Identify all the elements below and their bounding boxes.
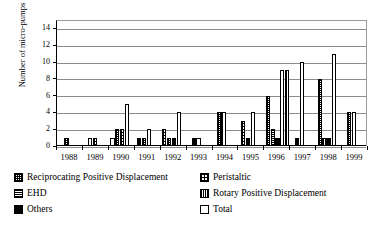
bar-1996-total: [280, 70, 284, 146]
y-axis-tick-label: 4: [26, 108, 50, 116]
x-axis-tick-mark: [108, 146, 109, 150]
y-axis-tick-label: 2: [26, 125, 50, 133]
legend-row: EHD Rotary Positive Displacement: [14, 188, 374, 204]
bar-1994-total: [222, 112, 226, 146]
legend-swatch-peristaltic-icon: [200, 173, 209, 182]
legend-item-total: Total: [200, 204, 374, 215]
bar-1992-peri: [162, 129, 166, 146]
bar-1998-total: [332, 54, 336, 146]
bar-1992-total: [177, 112, 181, 146]
bar-1996-ehd: [271, 129, 275, 146]
bar-1991-total: [147, 129, 151, 146]
x-axis-tick-mark: [134, 146, 135, 150]
legend-item-peristaltic: Peristaltic: [200, 172, 374, 183]
x-axis-tick-labels: 1988198919901991199219931994199519961997…: [56, 152, 367, 166]
legend-label: Rotary Positive Displacement: [213, 188, 326, 199]
x-axis-tick-mark: [263, 146, 264, 150]
x-axis-tick-mark: [367, 146, 368, 150]
x-axis-tick-mark: [160, 146, 161, 150]
bar-1990-recip: [115, 129, 119, 146]
legend-item-recip: Reciprocating Positive Displacement: [14, 172, 200, 183]
legend-row: Reciprocating Positive Displacement Peri…: [14, 172, 374, 188]
x-axis-tick-mark: [56, 146, 57, 150]
x-axis-tick-mark: [341, 146, 342, 150]
plot-area: [56, 20, 367, 146]
x-axis-tick-mark: [212, 146, 213, 150]
bar-1997-total: [300, 62, 304, 146]
y-axis-tick-label: 0: [26, 142, 50, 150]
bar-1996-rotary: [285, 70, 289, 146]
bar-series-container: [57, 21, 366, 146]
legend-swatch-others-icon: [14, 205, 23, 214]
legend-item-ehd: EHD: [14, 188, 200, 199]
legend-swatch-rotary-icon: [200, 189, 209, 198]
bar-1990-total: [125, 104, 129, 146]
y-axis-tick-label: 12: [26, 41, 50, 49]
legend-swatch-total-icon: [200, 205, 209, 214]
x-axis-tick-mark: [289, 146, 290, 150]
bar-1994-recip: [217, 112, 221, 146]
legend-label: Total: [213, 204, 232, 215]
legend-label: Others: [27, 204, 52, 215]
x-axis-tick-mark: [186, 146, 187, 150]
bar-1996-recip: [266, 96, 270, 146]
legend-label: Reciprocating Positive Displacement: [27, 172, 168, 183]
bar-1990-peri: [120, 129, 124, 146]
legend-swatch-recip-icon: [14, 173, 23, 182]
chart-root: Number of micro-pumps 02468101214 198819…: [0, 0, 386, 232]
legend-item-rotary: Rotary Positive Displacement: [200, 188, 374, 199]
x-axis-tick-mark: [315, 146, 316, 150]
chart-legend: Reciprocating Positive Displacement Peri…: [14, 172, 374, 220]
x-axis-tick-mark: [237, 146, 238, 150]
legend-label: Peristaltic: [213, 172, 251, 183]
bar-1995-total: [251, 112, 255, 146]
legend-row: Others Total: [14, 204, 374, 220]
x-axis-tick-label: 1999: [339, 152, 369, 162]
legend-label: EHD: [27, 188, 47, 199]
legend-swatch-ehd-icon: [14, 189, 23, 198]
y-axis-tick-label: 14: [26, 24, 50, 32]
y-axis-tick-label: 8: [26, 75, 50, 83]
bar-1998-recip: [318, 79, 322, 146]
bar-1999-recip: [347, 112, 351, 146]
x-axis-tick-mark: [82, 146, 83, 150]
legend-item-others: Others: [14, 204, 200, 215]
y-axis-tick-label: 6: [26, 92, 50, 100]
bar-1999-total: [352, 112, 356, 146]
bar-1995-peri: [241, 121, 245, 146]
y-axis-tick-label: 10: [26, 58, 50, 66]
